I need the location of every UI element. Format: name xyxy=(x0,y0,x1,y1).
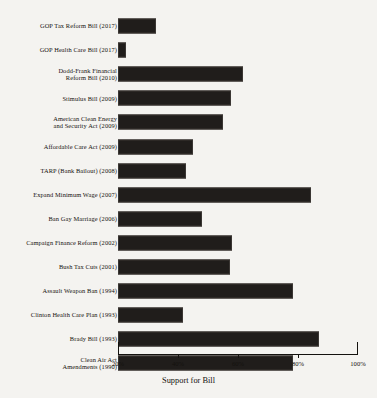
bar-category-label: Affordable Care Act (2009) xyxy=(5,143,117,151)
bar-category-label: Campaign Finance Reform (2002) xyxy=(5,239,117,247)
x-axis-tick-label: 60% xyxy=(232,360,244,367)
bar-track xyxy=(118,115,223,130)
x-axis-tick xyxy=(238,354,239,358)
x-axis-tick-label: 80% xyxy=(292,360,304,367)
bar xyxy=(118,139,193,154)
bar-category-label: Expand Minimum Wage (2007) xyxy=(5,191,117,199)
bar-row: Campaign Finance Reform (2002) xyxy=(0,231,377,255)
bar-track xyxy=(118,67,243,82)
bar xyxy=(118,163,186,178)
bar-category-label: GOP Tax Reform Bill (2017) xyxy=(5,22,117,30)
bar-track xyxy=(118,332,319,347)
bar xyxy=(118,211,202,226)
bar-track xyxy=(118,284,293,299)
bar xyxy=(118,259,230,274)
bar-row: Affordable Care Act (2009) xyxy=(0,134,377,158)
x-axis-tick-label: 100% xyxy=(350,360,365,367)
bar-category-label: Clinton Health Care Plan (1993) xyxy=(5,311,117,319)
bar-category-label: Ban Gay Marriage (2006) xyxy=(5,215,117,223)
x-axis-tick xyxy=(298,354,299,358)
bar-row: TARP (Bank Bailout) (2008) xyxy=(0,159,377,183)
bar xyxy=(118,332,319,347)
bar-row: GOP Tax Reform Bill (2017) xyxy=(0,14,377,38)
bar xyxy=(118,356,293,371)
bar-category-label: Dodd-Frank Financial Reform Bill (2010) xyxy=(5,67,117,82)
bar-category-label: TARP (Bank Bailout) (2008) xyxy=(5,167,117,175)
bar-track xyxy=(118,91,231,106)
bar-track xyxy=(118,19,156,34)
bar-track xyxy=(118,139,193,154)
bar-row: Brady Bill (1993) xyxy=(0,327,377,351)
bar-row: GOP Health Care Bill (2017) xyxy=(0,38,377,62)
bar-track xyxy=(118,187,311,202)
bar-track xyxy=(118,235,232,250)
bar-category-label: Assault Weapon Ban (1994) xyxy=(5,287,117,295)
bar xyxy=(118,187,311,202)
bar-track xyxy=(118,43,126,58)
bar-row: Bush Tax Cuts (2001) xyxy=(0,255,377,279)
bar xyxy=(118,308,183,323)
bar xyxy=(118,19,156,34)
bar-row: Assault Weapon Ban (1994) xyxy=(0,279,377,303)
bar-track xyxy=(118,308,183,323)
bar-category-label: Stimulus Bill (2009) xyxy=(5,95,117,103)
bar xyxy=(118,91,231,106)
bar-row: American Clean Energy and Security Act (… xyxy=(0,110,377,134)
x-axis-tick xyxy=(178,354,179,358)
x-axis-title: Support for Bill xyxy=(0,376,377,385)
bar xyxy=(118,43,126,58)
x-axis-tick-label: 40% xyxy=(172,360,184,367)
bar-category-label: Brady Bill (1993) xyxy=(5,335,117,343)
bar-row: Stimulus Bill (2009) xyxy=(0,86,377,110)
bar-category-label: Bush Tax Cuts (2001) xyxy=(5,263,117,271)
bar-chart: GOP Tax Reform Bill (2017)GOP Health Car… xyxy=(0,0,377,398)
bar-row: Dodd-Frank Financial Reform Bill (2010) xyxy=(0,62,377,86)
bar xyxy=(118,67,243,82)
bar-category-label: GOP Health Care Bill (2017) xyxy=(5,46,117,54)
bar-category-label: Clean Air Act Amendments (1990) xyxy=(5,356,117,371)
bar-category-label: American Clean Energy and Security Act (… xyxy=(5,115,117,130)
bar-track xyxy=(118,259,230,274)
x-axis-right-cap xyxy=(357,342,358,355)
x-axis-tick-label: 20% xyxy=(112,360,124,367)
bar-rows: GOP Tax Reform Bill (2017)GOP Health Car… xyxy=(0,14,377,375)
bar xyxy=(118,284,293,299)
bar-row: Expand Minimum Wage (2007) xyxy=(0,183,377,207)
bar-track xyxy=(118,356,293,371)
x-axis-left-cap xyxy=(118,342,119,355)
bar-row: Clinton Health Care Plan (1993) xyxy=(0,303,377,327)
bar-track xyxy=(118,211,202,226)
bar-row: Ban Gay Marriage (2006) xyxy=(0,207,377,231)
bar-track xyxy=(118,163,186,178)
bar xyxy=(118,235,232,250)
bar xyxy=(118,115,223,130)
